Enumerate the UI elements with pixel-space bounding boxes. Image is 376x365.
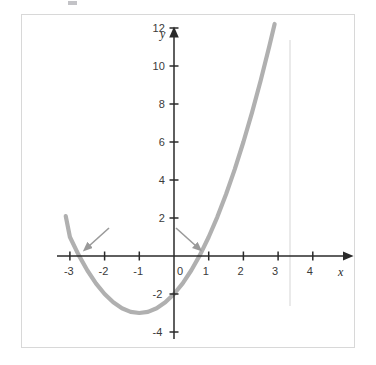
y-tick-label: -2 <box>153 289 163 300</box>
right-root-arrow <box>176 228 196 246</box>
x-tick-label: 3 <box>272 266 278 277</box>
x-tick-label: 4 <box>307 266 313 277</box>
x-tick-label: -1 <box>133 266 143 277</box>
y-axis-label: y <box>160 28 165 40</box>
y-tick-label: -4 <box>153 327 163 338</box>
y-tick-label: 10 <box>153 61 165 72</box>
y-tick-label: 4 <box>159 175 165 186</box>
figure-root: -3-2-101234 -4-224681012 x y <box>0 0 376 365</box>
left-root-arrow <box>89 228 109 246</box>
y-tick-label: 2 <box>159 213 165 224</box>
x-tick-label: 2 <box>237 266 243 277</box>
x-tick-label: 0 <box>177 266 183 277</box>
y-tick-label: 8 <box>159 99 165 110</box>
x-tick-label: -3 <box>64 266 74 277</box>
chart-canvas <box>0 0 376 365</box>
x-tick-label: 1 <box>203 266 209 277</box>
x-axis-label: x <box>338 266 343 278</box>
annotation-arrows-group <box>89 228 196 246</box>
x-tick-label: -2 <box>99 266 109 277</box>
y-tick-label: 6 <box>159 137 165 148</box>
axes-group <box>57 28 344 339</box>
